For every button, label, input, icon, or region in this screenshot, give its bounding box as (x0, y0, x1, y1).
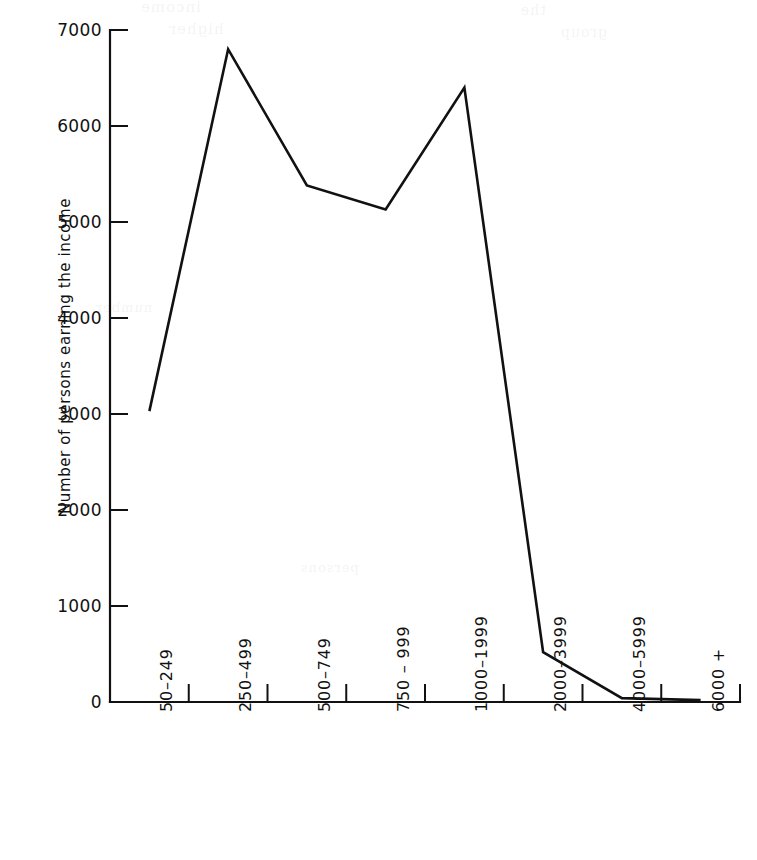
y-axis-tick-label: 0 (10, 692, 102, 712)
data-series-line (149, 49, 700, 700)
x-axis-tick-label: 6000 + (709, 582, 728, 712)
x-axis-tick-label: 2000–3999 (551, 582, 570, 712)
x-axis-tick-label: 250–499 (236, 582, 255, 712)
x-axis-tick-label: 1000–1999 (472, 582, 491, 712)
x-axis-tick-label: 50–249 (157, 582, 176, 712)
x-axis-tick-label: 4000–5999 (630, 582, 649, 712)
plot-area (0, 0, 757, 860)
x-axis-tick-label: 750 – 999 (394, 582, 413, 712)
y-axis-tick-label: 6000 (10, 116, 102, 136)
chart-figure: income higher the group number persons 0… (0, 0, 757, 860)
y-axis-tick-label: 1000 (10, 596, 102, 616)
y-axis-ticks (110, 30, 128, 702)
y-axis-title: Number of persons earning the income (56, 214, 74, 514)
x-axis-tick-label: 500–749 (315, 582, 334, 712)
y-axis-tick-label: 7000 (10, 20, 102, 40)
